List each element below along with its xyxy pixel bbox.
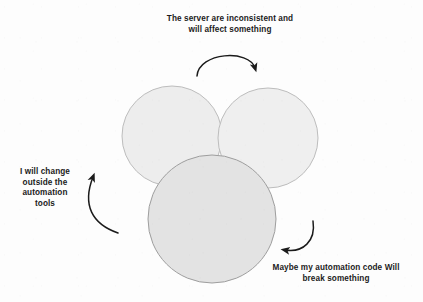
venn-diagram-graphic <box>0 0 423 302</box>
arrow-left <box>89 177 118 233</box>
diagram-canvas: The server are inconsistent and will aff… <box>0 0 423 302</box>
arrow-top <box>197 56 255 76</box>
caption-bottom-right: Maybe my automation code Will break some… <box>256 263 416 284</box>
caption-left: I will change outside the automation too… <box>6 167 84 209</box>
caption-top: The server are inconsistent and will aff… <box>150 14 310 35</box>
arrow-bottom-right <box>285 221 313 250</box>
